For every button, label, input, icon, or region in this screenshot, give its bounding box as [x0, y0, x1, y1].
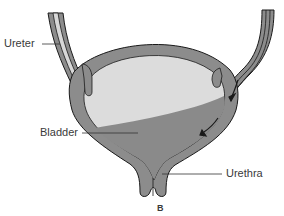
- bladder-diagram: [0, 0, 284, 216]
- urethra-label: Urethra: [226, 168, 263, 179]
- ureter-label: Ureter: [4, 38, 35, 49]
- bladder-label: Bladder: [40, 127, 78, 138]
- figure-caption: B: [157, 203, 164, 213]
